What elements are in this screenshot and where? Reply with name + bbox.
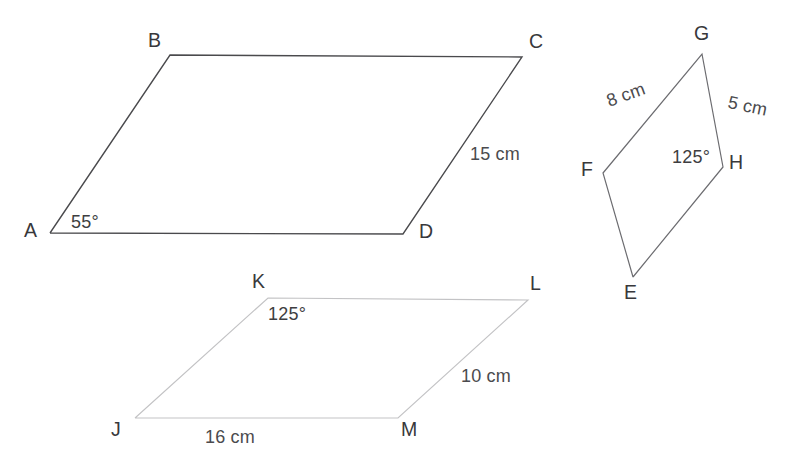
parallelogram-abcd-outline [50, 55, 522, 234]
angle-label-a: 55° [71, 213, 99, 231]
measure-label-lm: 10 cm [461, 367, 511, 385]
measure-label-cd: 15 cm [470, 145, 520, 163]
vertex-label-c: C [529, 32, 543, 52]
vertex-label-h: H [729, 153, 743, 173]
vertex-label-k: K [252, 272, 265, 292]
parallelogram-jklm-outline [135, 298, 528, 418]
vertex-label-g: G [694, 24, 709, 44]
vertex-label-l: L [530, 274, 541, 294]
vertex-label-b: B [148, 31, 161, 51]
measure-label-jm: 16 cm [205, 428, 255, 446]
vertex-label-a: A [24, 221, 37, 241]
vertex-label-e: E [624, 283, 637, 303]
vertex-label-f: F [581, 160, 593, 180]
angle-label-k: 125° [268, 305, 306, 323]
geometry-svg-layer [0, 0, 789, 473]
angle-label-h: 125° [672, 148, 710, 166]
vertex-label-m: M [401, 420, 417, 440]
vertex-label-j: J [111, 420, 121, 440]
geometry-figure-canvas: A B C D 55° 15 cm E F G H 8 cm 5 cm 125°… [0, 0, 789, 473]
vertex-label-d: D [419, 222, 433, 242]
